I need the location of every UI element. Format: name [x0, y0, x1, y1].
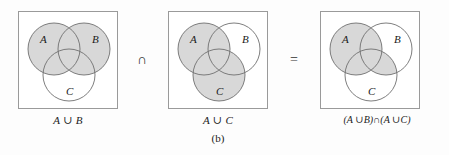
panel-caption: (A ∪B)∩(A ∪C)	[312, 114, 442, 125]
venn-panel-result: A B C (A ∪B)∩(A ∪C)	[312, 0, 442, 155]
venn-diagram-3: A B C	[320, 11, 420, 109]
intersection-operator: ∩	[132, 52, 152, 68]
venn-diagram-2: A B C	[168, 11, 268, 109]
venn-figure: A B C A ∪ B ∩ A B C A ∪ C (b) =	[0, 0, 449, 155]
set-label-c: C	[368, 85, 376, 97]
set-label-a: A	[341, 33, 349, 45]
venn-panel-a-union-b: A B C A ∪ B	[10, 0, 126, 155]
set-label-c: C	[66, 85, 74, 97]
set-label-b: B	[92, 33, 99, 45]
set-label-b: B	[394, 33, 401, 45]
set-label-a: A	[39, 33, 47, 45]
panel-caption: A ∪ B	[10, 114, 126, 127]
venn-diagram-1: A B C	[18, 11, 118, 109]
venn-panel-a-union-c: A B C A ∪ C (b)	[160, 0, 276, 155]
set-label-b: B	[242, 33, 249, 45]
set-label-c: C	[216, 85, 224, 97]
set-label-a: A	[189, 33, 197, 45]
subfigure-label: (b)	[160, 132, 276, 144]
panel-caption: A ∪ C	[160, 114, 276, 127]
equals-operator: =	[284, 52, 304, 68]
